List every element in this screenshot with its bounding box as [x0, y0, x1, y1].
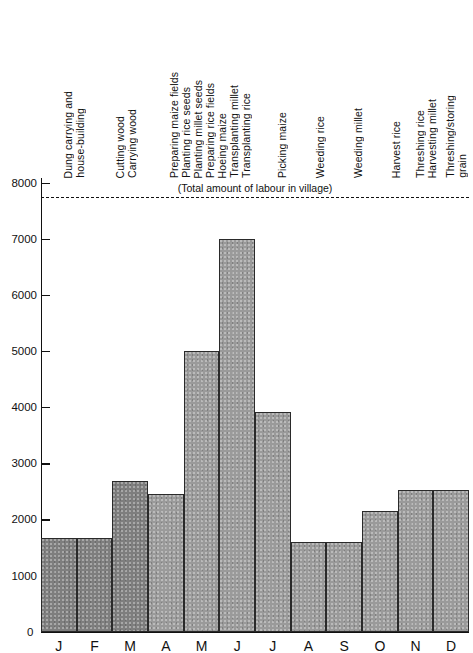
activity-group-1: Cutting woodCarrying wood [114, 109, 138, 178]
activity-group-8: Threshing riceHarvesting millet [414, 99, 438, 178]
y-tick-mark [41, 295, 50, 296]
total-labour-reference-line [41, 197, 469, 198]
bar-n-10 [398, 490, 434, 631]
activity-label: Dung carrying and [62, 91, 74, 179]
bar-j-6 [255, 412, 291, 631]
y-tick-label: 1000 [11, 570, 37, 582]
activity-label: Weeding rice [314, 116, 326, 178]
y-tick-mark [41, 463, 50, 464]
activity-label: Weeding millet [352, 108, 364, 178]
activity-label: Transplanting rice [240, 93, 252, 178]
activity-group-3: Transplanting milletTransplanting rice [228, 85, 252, 178]
activity-label: Picking maize [276, 112, 288, 178]
month-label-4: M [196, 638, 208, 653]
activity-label: house-building [74, 108, 86, 178]
bar-d-11 [433, 490, 469, 631]
bar-f-1 [77, 538, 113, 632]
bar-a-3 [148, 494, 184, 631]
activity-label: Threshing/storing [444, 95, 456, 178]
activity-group-2: Preparing maize fieldsPlanting rice seed… [168, 72, 228, 178]
month-label-11: D [446, 638, 456, 653]
activity-label: Planting millet seeds [192, 80, 204, 178]
y-tick-mark [41, 239, 50, 240]
y-tick-label: 2000 [11, 513, 37, 525]
activity-label: Hoeing maize [216, 113, 228, 178]
bar-m-2 [112, 481, 148, 632]
bar-j-0 [41, 538, 77, 632]
month-label-2: M [124, 638, 136, 653]
activity-caption-band: Dung carrying andhouse-buildingCutting w… [0, 0, 473, 178]
month-label-5: J [234, 638, 241, 653]
activity-group-9: Threshing/storinggrain [444, 95, 468, 178]
month-label-1: F [90, 638, 99, 653]
y-tick-label: 3000 [11, 457, 37, 469]
activity-label: Harvesting millet [426, 99, 438, 178]
activity-label: Transplanting millet [228, 85, 240, 178]
activity-group-5: Weeding rice [314, 116, 326, 178]
month-label-0: J [55, 638, 62, 653]
activity-group-7: Harvest rice [390, 121, 402, 178]
month-label-8: S [339, 638, 348, 653]
month-label-10: N [410, 638, 420, 653]
activity-label: Preparing rice fields [204, 83, 216, 178]
total-labour-reference-label: (Total amount of labour in village) [41, 182, 469, 194]
chart-plot-area: 10002000300040005000600070008000 (Total … [41, 178, 469, 633]
bar-o-9 [362, 511, 398, 632]
y-tick-label: 8000 [11, 177, 37, 189]
activity-label: Carrying wood [126, 109, 138, 178]
y-tick-mark [41, 407, 50, 408]
y-tick-label: 7000 [11, 233, 37, 245]
month-label-6: J [269, 638, 276, 653]
activity-label: grain [456, 154, 468, 178]
y-tick-mark [41, 351, 50, 352]
activity-group-0: Dung carrying andhouse-building [62, 91, 86, 179]
activity-label: Harvest rice [390, 121, 402, 178]
month-label-7: A [304, 638, 313, 653]
x-axis-line [41, 632, 469, 633]
activity-label: Planting rice seeds [180, 87, 192, 178]
y-tick-label: 6000 [11, 289, 37, 301]
bar-s-8 [326, 542, 362, 632]
activity-group-4: Picking maize [276, 112, 288, 178]
bar-j-5 [219, 239, 255, 632]
bar-m-4 [184, 351, 220, 631]
month-label-3: A [161, 638, 170, 653]
activity-label: Threshing rice [414, 110, 426, 178]
y-tick-label: 5000 [11, 345, 37, 357]
activity-label: Preparing maize fields [168, 72, 180, 178]
activity-label: Cutting wood [114, 116, 126, 179]
y-tick-label: 4000 [11, 401, 37, 413]
y-tick-mark [41, 519, 50, 520]
bar-a-7 [291, 542, 327, 632]
month-label-9: O [374, 638, 385, 653]
y-axis-zero-label: 0 [27, 626, 33, 638]
activity-group-6: Weeding millet [352, 108, 364, 178]
